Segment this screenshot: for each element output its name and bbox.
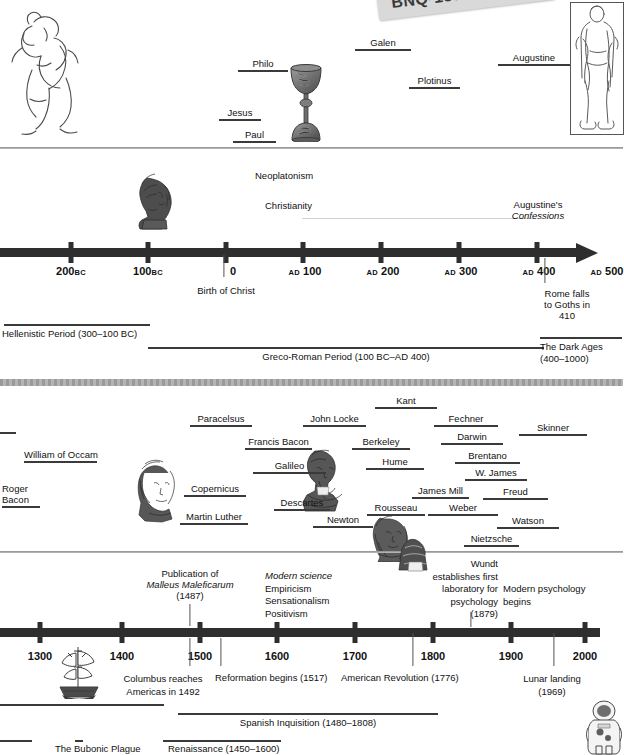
person-label-line-1: Roger [2,483,40,494]
person-span-bar [184,495,246,497]
person-span-bar [498,64,570,66]
annotation-line-3: laboratory for [442,583,498,594]
period-renaissance-bar [163,740,281,742]
annotation-line-3: Sensationalism [265,595,329,606]
annotation-line-2: Empiricism [265,583,311,594]
person-span-bar [464,545,519,547]
event-reformation: Reformation begins (1517) [215,672,327,683]
person-william-of-occam: William of Occam [24,449,97,463]
tick-label-ad400: AD 400 [523,265,556,277]
inventory-sticker: BNQ-158 [376,0,556,21]
columbus-pointer [189,638,190,666]
person-span-bar [190,425,252,427]
person-span-bar [434,425,498,427]
person-span-bar [303,425,366,427]
malleus-pointer [189,604,190,626]
annotation-line-5: (1879) [471,608,498,619]
movement-label: Neoplatonism [255,170,313,181]
tick-label-ad500: AD 500 [591,265,624,277]
tick-mark [38,622,43,643]
tick-mark [69,242,74,263]
person-span-bar [441,443,503,445]
person-label: Weber [428,502,498,513]
event-columbus: Columbus reaches Americas in 1492 [123,672,202,698]
period-label-line-1: The Dark Ages [540,341,603,352]
lunar-landing-pointer [553,633,554,666]
tick-mark [535,242,540,263]
person-label: Galileo [253,460,326,471]
person-philo: Philo [238,58,288,72]
birth-of-christ-pointer [223,255,224,277]
person-skinner: Skinner [519,422,587,436]
person-label: Brentano [455,450,520,461]
period-renaissance-label: Renaissance (1450–1600) [168,743,279,755]
tick-label-1500: 1500 [188,650,212,662]
person-label: Skinner [519,422,587,433]
annotation-line-2: Malleus Maleficarum [146,579,233,590]
event-line-1: American Revolution (1776) [341,672,459,683]
copernicus-portrait-illustration [132,455,184,523]
tick-label-ad200: AD 200 [367,265,400,277]
person-darwin: Darwin [441,431,503,445]
annotation-line-3: (1487) [176,590,203,601]
person-span-bar [428,514,498,516]
person-kant: Kant [375,395,437,409]
person-label: Rousseau [367,502,425,513]
person-roger-bacon: Roger Bacon [2,483,40,508]
annotation-wundt-lab: Wundt establishes first laboratory for p… [430,558,498,621]
tick-mark [457,242,462,263]
person-label-line-2: Bacon [2,494,40,505]
tick-label-200bc: 200BC [56,265,86,277]
christianity-span-bar [302,218,534,219]
person-label: Augustine [498,52,570,63]
person-francis-bacon: Francis Bacon [245,436,312,450]
movement-neoplatonism: Neoplatonism [255,170,313,181]
person-copernicus: Copernicus [184,483,246,497]
person-span-bar [24,461,97,463]
annotation-modern-psychology: Modern psychology begins [503,583,585,608]
reformation-pointer [220,638,221,666]
event-american-revolution: American Revolution (1776) [341,672,459,683]
tick-label-2000: 2000 [573,650,597,662]
tick-mark [353,622,358,643]
section-divider-1 [0,147,623,149]
rome-falls-pointer [544,258,545,283]
tick-label-ad300: AD 300 [445,265,478,277]
person-plotinus: Plotinus [409,75,460,89]
person-galileo: Galileo [253,460,326,474]
event-line-1: Lunar landing [523,673,581,684]
person-label: Paracelsus [190,413,252,424]
tick-label-1700: 1700 [343,650,367,662]
tick-label-100bc: 100BC [133,265,163,277]
annotation-malleus-maleficarum: Publication of Malleus Maleficarum (1487… [146,568,233,601]
ancient-timeline-axis [0,248,578,257]
person-span-bar [352,448,410,450]
person-label: Darwin [441,431,503,442]
person-label: Paul [233,129,276,140]
person-span-bar [355,49,411,51]
person-weber: Weber [428,502,498,516]
tick-label-1400: 1400 [110,650,134,662]
event-line-1: Rome falls [545,288,590,299]
person-augustine: Augustine [498,52,570,66]
person-span-bar [409,87,460,89]
person-john-locke: John Locke [303,413,366,427]
event-line-1: Reformation begins (1517) [215,672,327,683]
event-line-2: (1969) [538,686,565,697]
note-line-2: Confessions [512,210,564,221]
person-span-bar [238,70,288,72]
person-berkeley: Berkeley [352,436,410,450]
section-divider-3 [0,551,623,553]
annotation-line-4: Positivism [265,608,308,619]
person-label: Copernicus [184,483,246,494]
tick-mark [275,622,280,643]
person-label: James Mill [412,485,469,496]
person-hume: Hume [366,456,424,470]
section-divider-2 [0,379,623,386]
person-label: Fechner [434,413,498,424]
person-label: W. James [465,467,527,478]
period-bubonic-plague-label: The Bubonic Plague [55,743,141,755]
astronaut-illustration [586,700,622,755]
period-spanish-inquisition-bar [178,713,438,715]
person-rousseau: Rousseau [367,502,425,516]
